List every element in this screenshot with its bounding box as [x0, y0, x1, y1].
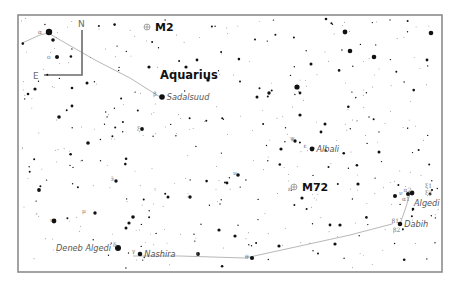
- greek-letter: ε: [304, 142, 307, 149]
- dso-label: M2: [155, 21, 174, 34]
- greek-letter: ο: [47, 53, 51, 60]
- star-name-label: Sadalsuud: [167, 92, 210, 102]
- star-alpha-aqr: [46, 29, 52, 35]
- north-label: N: [78, 19, 85, 29]
- greek-letter: λ: [111, 175, 115, 182]
- star-dot: [138, 252, 143, 257]
- star-dot: [159, 94, 165, 100]
- greek-letter: β: [153, 90, 157, 98]
- greek-letter: ξ2: [425, 189, 432, 197]
- greek-letter: μ: [82, 207, 86, 215]
- greek-letter: δ: [113, 241, 117, 248]
- star-dot: [310, 147, 315, 152]
- constellation-label: Aquarius: [160, 68, 218, 82]
- greek-letter: α2: [404, 186, 412, 193]
- greek-letter: β1: [392, 217, 399, 225]
- greek-letter: θ: [245, 253, 249, 260]
- star-name-label: Albali: [315, 144, 339, 154]
- greek-letter: ν: [399, 189, 403, 196]
- star-name-label: Deneb Algedi: [56, 243, 112, 253]
- greek-letter: ε: [288, 185, 291, 192]
- east-label: E: [33, 71, 39, 81]
- greek-letter: γ: [132, 247, 136, 255]
- star-chart: N E: [0, 0, 460, 288]
- greek-letter: β2: [393, 226, 400, 234]
- greek-letter: ψ: [290, 134, 295, 142]
- greek-letter: ν: [233, 169, 237, 176]
- greek-letter: α1: [402, 195, 410, 202]
- dso-label: M72: [302, 181, 328, 194]
- greek-letter: α: [38, 28, 42, 35]
- star-name-label: Algedi: [413, 198, 440, 208]
- star-name-label: Nashira: [144, 249, 175, 259]
- star-name-label: Dabih: [404, 219, 428, 229]
